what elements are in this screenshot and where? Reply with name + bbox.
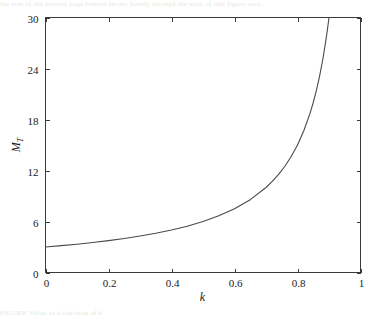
svg-text:MT: MT <box>9 137 25 153</box>
y-tick-label: 18 <box>28 115 40 127</box>
y-tick-label: 6 <box>33 217 39 229</box>
data-series-line <box>46 18 330 248</box>
y-axis-label: MT <box>9 137 25 153</box>
plot-frame <box>46 18 361 273</box>
chart-svg: 0612182430 00.20.40.60.81 k MT <box>0 0 378 318</box>
y-tick-label: 0 <box>33 268 39 280</box>
x-tick-label: 0.2 <box>103 277 117 289</box>
x-tick-label: 0.8 <box>292 277 306 289</box>
x-tick-label: 0.4 <box>166 277 180 289</box>
x-tick-label: 0.6 <box>229 277 243 289</box>
x-axis-label: k <box>200 290 206 304</box>
x-axis-ticks <box>47 18 362 273</box>
y-tick-label: 30 <box>28 13 40 25</box>
x-tick-label: 0 <box>44 277 50 289</box>
y-tick-label: 12 <box>28 166 39 178</box>
figure-page: the text of the printed page behind show… <box>0 0 378 318</box>
y-tick-label: 24 <box>28 64 40 76</box>
y-axis-ticks <box>46 19 361 274</box>
chart-figure: 0612182430 00.20.40.60.81 k MT <box>0 0 378 318</box>
x-tick-label: 1 <box>359 277 365 289</box>
y-axis-tick-labels: 0612182430 <box>28 13 40 280</box>
x-axis-tick-labels: 00.20.40.60.81 <box>44 277 365 289</box>
